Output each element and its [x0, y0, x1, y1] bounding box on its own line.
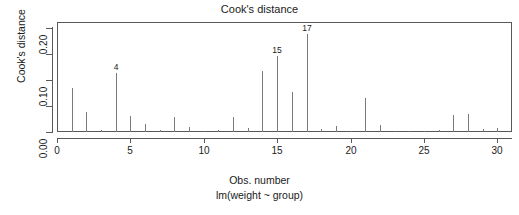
data-spike	[218, 130, 219, 132]
data-spike	[380, 125, 381, 132]
data-spike	[395, 131, 396, 132]
data-spike	[101, 130, 102, 132]
y-axis-label: Cook's distance	[15, 0, 27, 101]
x-axis-tick	[424, 138, 425, 143]
x-axis-tick-label: 5	[115, 145, 145, 156]
x-axis-tick-label: 25	[409, 145, 439, 156]
data-spike	[439, 130, 440, 132]
data-spike	[160, 130, 161, 132]
x-axis-tick	[57, 138, 58, 143]
data-spike	[351, 131, 352, 132]
x-axis-tick	[130, 138, 131, 143]
data-spike	[204, 131, 205, 132]
data-spike	[483, 129, 484, 132]
outlier-point-label: 4	[104, 63, 128, 72]
data-spike	[336, 126, 337, 132]
data-spike	[262, 71, 263, 132]
x-axis-tick-label: 10	[189, 145, 219, 156]
data-spike	[233, 117, 234, 132]
data-spike	[409, 131, 410, 132]
y-axis-line	[52, 27, 53, 133]
x-axis-tick	[497, 138, 498, 143]
x-axis-tick	[277, 138, 278, 143]
data-spike	[145, 124, 146, 132]
cooks-distance-chart: Cook's distance Cook's distance 0.000.10…	[0, 0, 519, 215]
data-spike	[424, 131, 425, 132]
x-axis-tick-label: 15	[262, 145, 292, 156]
data-spike	[321, 129, 322, 132]
x-axis-line	[57, 138, 512, 139]
x-axis-tick-label: 20	[336, 145, 366, 156]
outlier-point-label: 17	[295, 24, 319, 33]
data-spike	[277, 56, 278, 132]
chart-title: Cook's distance	[0, 3, 519, 16]
data-spike	[307, 34, 308, 132]
data-spike	[453, 115, 454, 132]
model-formula-caption: lm(weight ~ group)	[0, 189, 519, 202]
data-spike	[468, 114, 469, 132]
data-spike	[86, 112, 87, 132]
data-spike	[174, 117, 175, 132]
data-spike	[497, 128, 498, 132]
x-axis-tick	[351, 138, 352, 143]
x-axis-label: Obs. number	[0, 174, 519, 187]
plot-frame	[57, 22, 512, 132]
data-spike	[116, 73, 117, 132]
data-spike	[365, 98, 366, 132]
data-spike	[292, 92, 293, 132]
x-axis-tick	[204, 138, 205, 143]
data-spike	[189, 127, 190, 132]
x-axis-tick-label: 30	[482, 145, 512, 156]
data-spike	[130, 116, 131, 132]
data-spike	[72, 88, 73, 132]
outlier-point-label: 15	[265, 46, 289, 55]
data-spike	[248, 128, 249, 132]
y-axis-tick-label: 0.20	[38, 28, 49, 62]
y-axis-tick-label: 0.10	[38, 80, 49, 114]
x-axis-tick-label: 0	[42, 145, 72, 156]
